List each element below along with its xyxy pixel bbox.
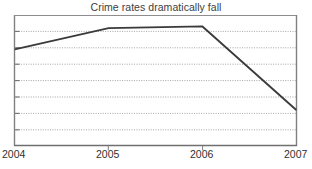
chart-figure: Crime rates dramatically fall	[0, 0, 312, 169]
x-tick-label-2004: 2004	[2, 148, 25, 160]
x-tick-label-2007: 2007	[284, 148, 307, 160]
x-tick-label-2005: 2005	[96, 148, 119, 160]
plot-area	[0, 0, 312, 169]
x-axis-ticks	[108, 146, 202, 151]
x-tick-label-2006: 2006	[190, 148, 213, 160]
